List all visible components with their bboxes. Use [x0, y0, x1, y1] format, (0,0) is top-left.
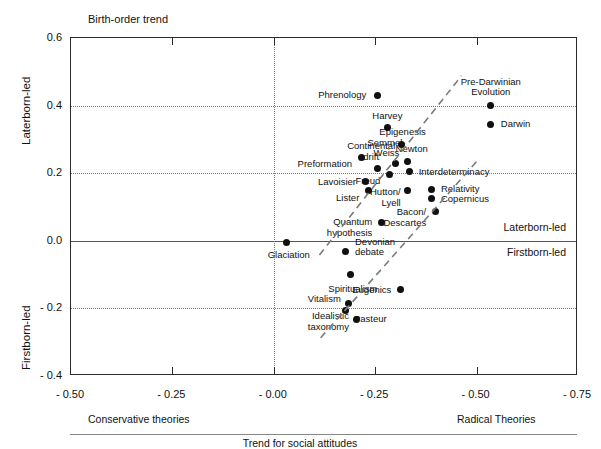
- x-axis-note-conservative: Conservative theories: [88, 413, 190, 425]
- data-point-label: Vitalism: [308, 294, 341, 305]
- data-point-label: Lister: [336, 193, 359, 204]
- data-point-label: Idealistic taxonomy: [308, 311, 349, 332]
- x-tick-label: - 0.25: [157, 388, 185, 400]
- xtick-bottom-3: [375, 367, 376, 374]
- x-tick-label: - 0.25: [360, 388, 388, 400]
- data-point-label: Copernicus: [441, 193, 489, 204]
- data-point-label: Preformation: [298, 159, 352, 170]
- data-point: [362, 178, 369, 185]
- x-tick-label: - 0.50: [56, 388, 84, 400]
- data-point: [432, 208, 439, 215]
- data-point-label: Lavoisier: [318, 176, 356, 187]
- y-tick-label: 0.2: [26, 166, 62, 178]
- data-point: [404, 187, 411, 194]
- data-point-label: Hutton/ Lyell: [370, 187, 401, 208]
- x-axis-underline: [70, 434, 577, 435]
- data-point: [347, 271, 354, 278]
- data-point-label: Interdeterminacy: [419, 166, 490, 177]
- xtick-bottom-4: [477, 367, 478, 374]
- data-point: [428, 195, 435, 202]
- data-point-label: Eugenics: [352, 285, 391, 296]
- data-point: [374, 165, 381, 172]
- chart-container: Birth-order trend Laterborn-led Firstbor…: [0, 0, 601, 449]
- data-point-label: Darwin: [501, 119, 531, 130]
- x-tick-label: - 0.75: [563, 388, 591, 400]
- xtick-top-4: [477, 38, 478, 45]
- gridline-x-center: [274, 38, 275, 374]
- y-tick-label: 0.6: [26, 31, 62, 43]
- gridline-y-0.4: [71, 106, 576, 107]
- note-firstborn-led: Firstborn-led: [507, 246, 566, 258]
- data-point-label: Devonian debate: [355, 236, 395, 257]
- data-point: [374, 92, 381, 99]
- xtick-top-3: [375, 38, 376, 45]
- data-point: [342, 248, 349, 255]
- x-axis-note-radical: Radical Theories: [457, 413, 536, 425]
- data-point: [487, 102, 494, 109]
- x-tick-label: - 0.50: [462, 388, 490, 400]
- xtick-bottom-1: [172, 367, 173, 374]
- xtick-top-2: [274, 38, 275, 45]
- data-point-label: Continental drift: [347, 141, 395, 162]
- chart-title: Birth-order trend: [88, 13, 168, 25]
- y-tick-label: - 0.4: [26, 369, 62, 381]
- note-laterborn-led: Laterborn-led: [504, 221, 566, 233]
- xtick-bottom-2: [274, 367, 275, 374]
- gridline-y-0.2: [71, 173, 576, 174]
- y-axis-title-firstborn: Firstborn-led: [20, 305, 32, 370]
- data-point: [345, 300, 352, 307]
- x-tick-label: - 0.00: [259, 388, 287, 400]
- y-axis-title-laterborn: Laterborn-led: [20, 77, 32, 145]
- xtick-top-1: [172, 38, 173, 45]
- y-tick-label: 0.0: [26, 234, 62, 246]
- data-point: [378, 219, 385, 226]
- data-point-label: Pre-Darwinian Evolution: [461, 76, 521, 97]
- x-axis-title: Trend for social attitudes: [243, 437, 358, 449]
- data-point: [283, 239, 290, 246]
- data-point: [487, 121, 494, 128]
- data-point: [397, 286, 404, 293]
- data-point-label: Harvey: [372, 110, 402, 121]
- data-point-label: Bacon/ Descartes: [383, 207, 426, 228]
- data-point: [428, 186, 435, 193]
- plot-area: Laterborn-led Firstborn-led PhrenologyPr…: [70, 37, 577, 375]
- data-point: [386, 171, 393, 178]
- data-point: [404, 158, 411, 165]
- data-point-label: Glaciation: [268, 250, 310, 261]
- zeroline-y-0: [71, 241, 576, 242]
- data-point-label: Phrenology: [318, 90, 366, 101]
